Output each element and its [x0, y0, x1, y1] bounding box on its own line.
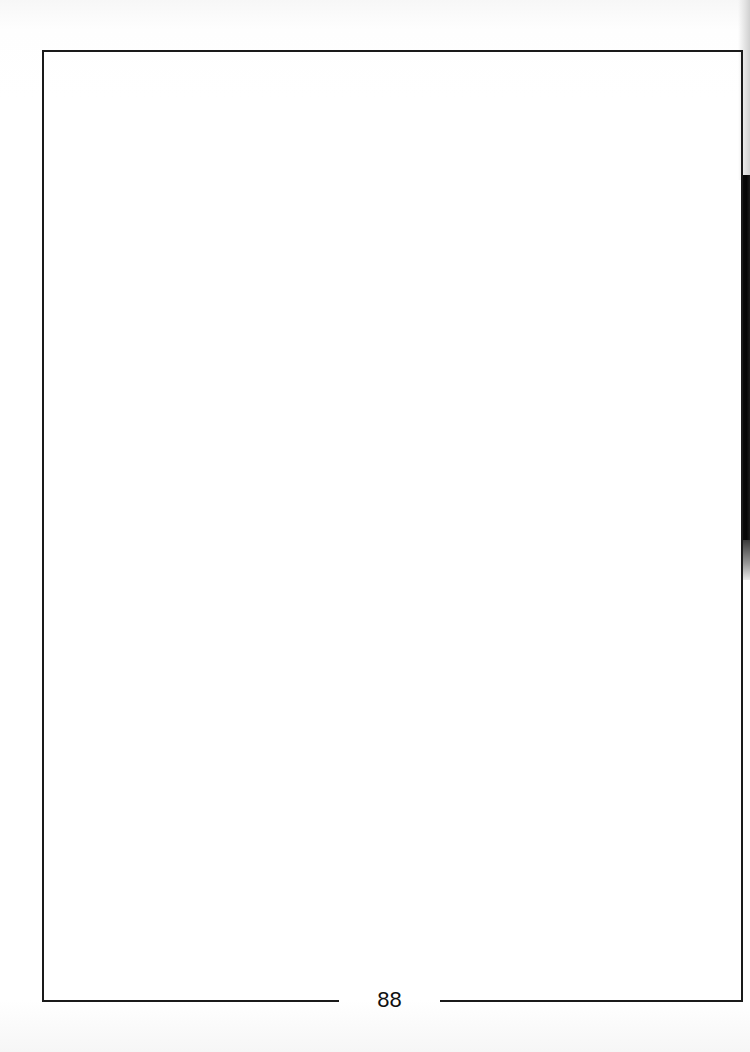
page-frame-left-border	[42, 50, 44, 1002]
page-edge-shadow	[738, 0, 750, 180]
page-frame-bottom-border-left	[42, 1000, 339, 1002]
page-number: 88	[339, 986, 440, 1014]
page-edge-binding-fade	[743, 540, 750, 580]
page-frame-right-border	[741, 50, 743, 1002]
page-frame-bottom-border-right	[440, 1000, 743, 1002]
page-sheet: 88	[0, 0, 750, 1052]
page-frame-top-border	[42, 50, 743, 52]
